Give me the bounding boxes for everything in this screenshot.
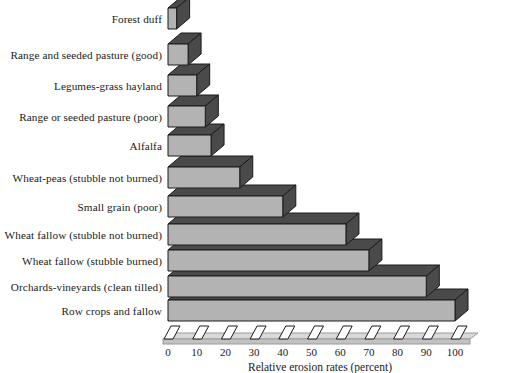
bar-front-face	[168, 167, 240, 188]
bar-front-face	[168, 44, 188, 65]
category-label: Wheat fallow (stubble burned)	[22, 255, 162, 267]
bar-front-face	[168, 75, 197, 96]
category-label: Range and seeded pasture (good)	[10, 49, 162, 61]
bar-front-face	[168, 276, 426, 297]
bar-front-face	[168, 224, 346, 245]
x-axis-title: Relative erosion rates (percent)	[170, 361, 470, 373]
bar-front-face	[168, 300, 455, 321]
category-label: Legumes-grass hayland	[54, 80, 162, 92]
bar-front-face	[168, 8, 177, 29]
category-label: Forest duff	[112, 13, 162, 25]
category-label: Range or seeded pasture (poor)	[19, 111, 162, 123]
bar-3d	[168, 64, 210, 96]
bar-front-face	[168, 250, 369, 271]
category-label: Small grain (poor)	[78, 201, 162, 213]
bar-front-face	[168, 106, 205, 127]
category-label: Orchards-vineyards (clean tilled)	[11, 281, 162, 293]
bar-3d	[168, 33, 201, 65]
category-label: Row crops and fallow	[62, 305, 163, 317]
bar-front-face	[168, 135, 211, 156]
bar-front-face	[168, 196, 283, 217]
category-label: Wheat fallow (stubble not burned)	[5, 229, 162, 241]
bar-top-face	[168, 156, 253, 167]
bar-3d	[168, 124, 224, 156]
bar-3d	[168, 0, 190, 29]
x-tick-label: 100	[435, 346, 475, 358]
bar-3d	[168, 213, 359, 245]
bar-3d	[168, 156, 253, 188]
category-label: Alfalfa	[130, 140, 162, 152]
category-label: Wheat-peas (stubble not burned)	[13, 172, 162, 184]
bar-3d	[168, 185, 296, 217]
bar-3d	[168, 95, 218, 127]
